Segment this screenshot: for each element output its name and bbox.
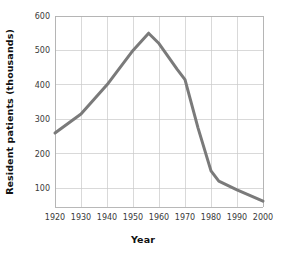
x-axis-title: Year [130,234,155,245]
y-tick-label: 300 [35,115,50,124]
x-tick-label: 1920 [45,213,65,222]
x-tick-label: 1970 [175,213,195,222]
x-tick-label: 1960 [149,213,169,222]
line-chart: 100200300400500600 192019301940195019601… [0,0,285,254]
y-tick-label: 500 [35,46,50,55]
x-tick-label: 1930 [71,213,91,222]
x-tick-label: 1950 [123,213,143,222]
y-axis-title: Resident patients (thousands) [4,29,15,195]
y-tick-label: 100 [35,184,50,193]
y-tick-label: 400 [35,81,50,90]
chart-container: 100200300400500600 192019301940195019601… [0,0,285,254]
x-tick-label: 2000 [253,213,273,222]
y-tick-label: 600 [35,12,50,21]
x-tick-label: 1990 [227,213,247,222]
y-tick-label: 200 [35,150,50,159]
x-axis-tick-labels: 192019301940195019601970198019902000 [45,213,273,222]
x-tick-label: 1940 [97,213,117,222]
x-tick-label: 1980 [201,213,221,222]
